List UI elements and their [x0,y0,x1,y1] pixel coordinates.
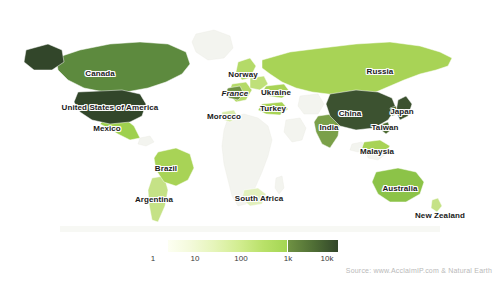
country-alaska [24,44,64,70]
country-malaysia [362,140,390,154]
source-attribution: Source: www.AcclaimIP.com & Natural Eart… [346,267,492,274]
country-ukraine [262,84,290,98]
legend-gradient-bar [168,240,338,252]
world-map-choropleth: Canada United States of America Mexico B… [0,0,496,292]
map-canvas[interactable]: Canada United States of America Mexico B… [0,0,496,232]
country-norway [236,58,256,80]
legend-segment-dark [288,240,338,252]
legend-tick-10: 10 [191,254,200,263]
color-scale-legend: 1 10 100 1k 10k Source: www.AcclaimIP.co… [0,232,496,292]
country-japan [396,96,412,120]
country-new-zealand [431,198,442,212]
legend-tick-1k: 1k [284,254,292,263]
country-canada [56,42,190,92]
country-argentina [148,176,168,222]
country-australia [372,168,424,202]
legend-tick-10k: 10k [321,254,334,263]
world-map-svg [0,0,496,232]
legend-tick-1: 1 [151,254,155,263]
country-taiwan [381,122,391,134]
country-turkey [258,102,288,115]
country-united-states [74,90,146,124]
legend-segment-light [168,240,287,252]
legend-tick-100: 100 [234,254,247,263]
country-russia [262,42,452,96]
legend-tick-labels: 1 10 100 1k 10k [0,254,496,268]
